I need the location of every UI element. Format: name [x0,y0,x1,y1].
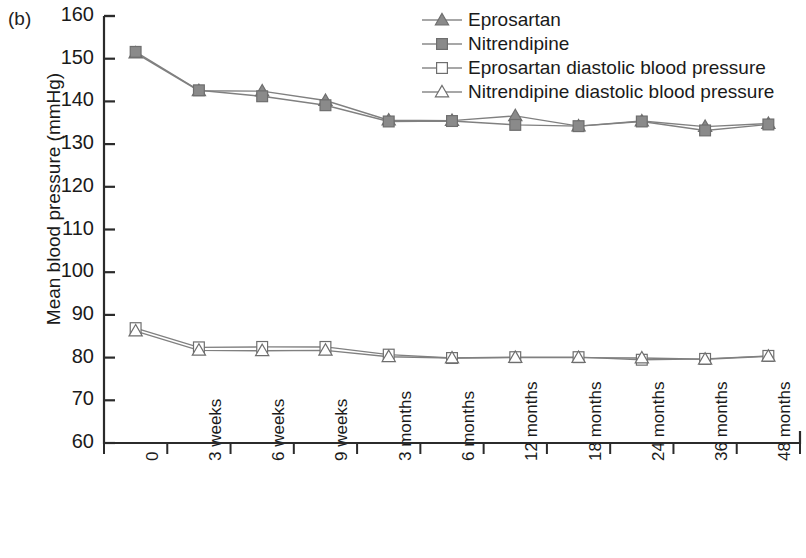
legend-item: Eprosartan [420,8,774,32]
legend-label: Nitrendipine [468,33,569,55]
legend-marker-filled-triangle-icon [420,9,464,31]
legend-label: Eprosartan [468,9,561,31]
legend-marker-open-square-icon [420,57,464,79]
chart-figure: (b) Mean blood pressure (mmHg) 160150140… [0,0,806,558]
legend-item: Nitrendipine diastolic blood pressure [420,80,774,104]
legend-marker-open-triangle-icon [420,81,464,103]
legend-marker-filled-square-icon [420,33,464,55]
legend-item: Eprosartan diastolic blood pressure [420,56,774,80]
legend-label: Eprosartan diastolic blood pressure [468,57,766,79]
chart-legend: Eprosartan Nitrendipine Eprosartan diast… [420,8,774,104]
legend-label: Nitrendipine diastolic blood pressure [468,81,774,103]
legend-item: Nitrendipine [420,32,774,56]
